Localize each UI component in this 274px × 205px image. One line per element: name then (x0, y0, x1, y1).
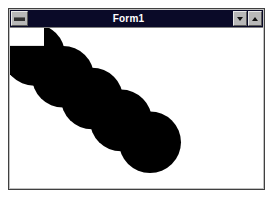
client-area[interactable] (10, 27, 263, 188)
application-window: Form1 (8, 8, 265, 190)
screen: Form1 (0, 0, 274, 205)
window-title: Form1 (28, 10, 233, 27)
corner-notch (10, 28, 44, 46)
circle-chain (10, 28, 181, 173)
drawing-canvas (10, 28, 263, 188)
minimize-button[interactable] (233, 11, 247, 26)
circle-5 (119, 111, 181, 173)
maximize-button[interactable] (248, 11, 262, 26)
maximize-arrow-icon (252, 17, 258, 21)
system-menu-icon[interactable] (11, 11, 28, 26)
title-bar[interactable]: Form1 (10, 10, 263, 27)
minimize-arrow-icon (237, 17, 243, 21)
